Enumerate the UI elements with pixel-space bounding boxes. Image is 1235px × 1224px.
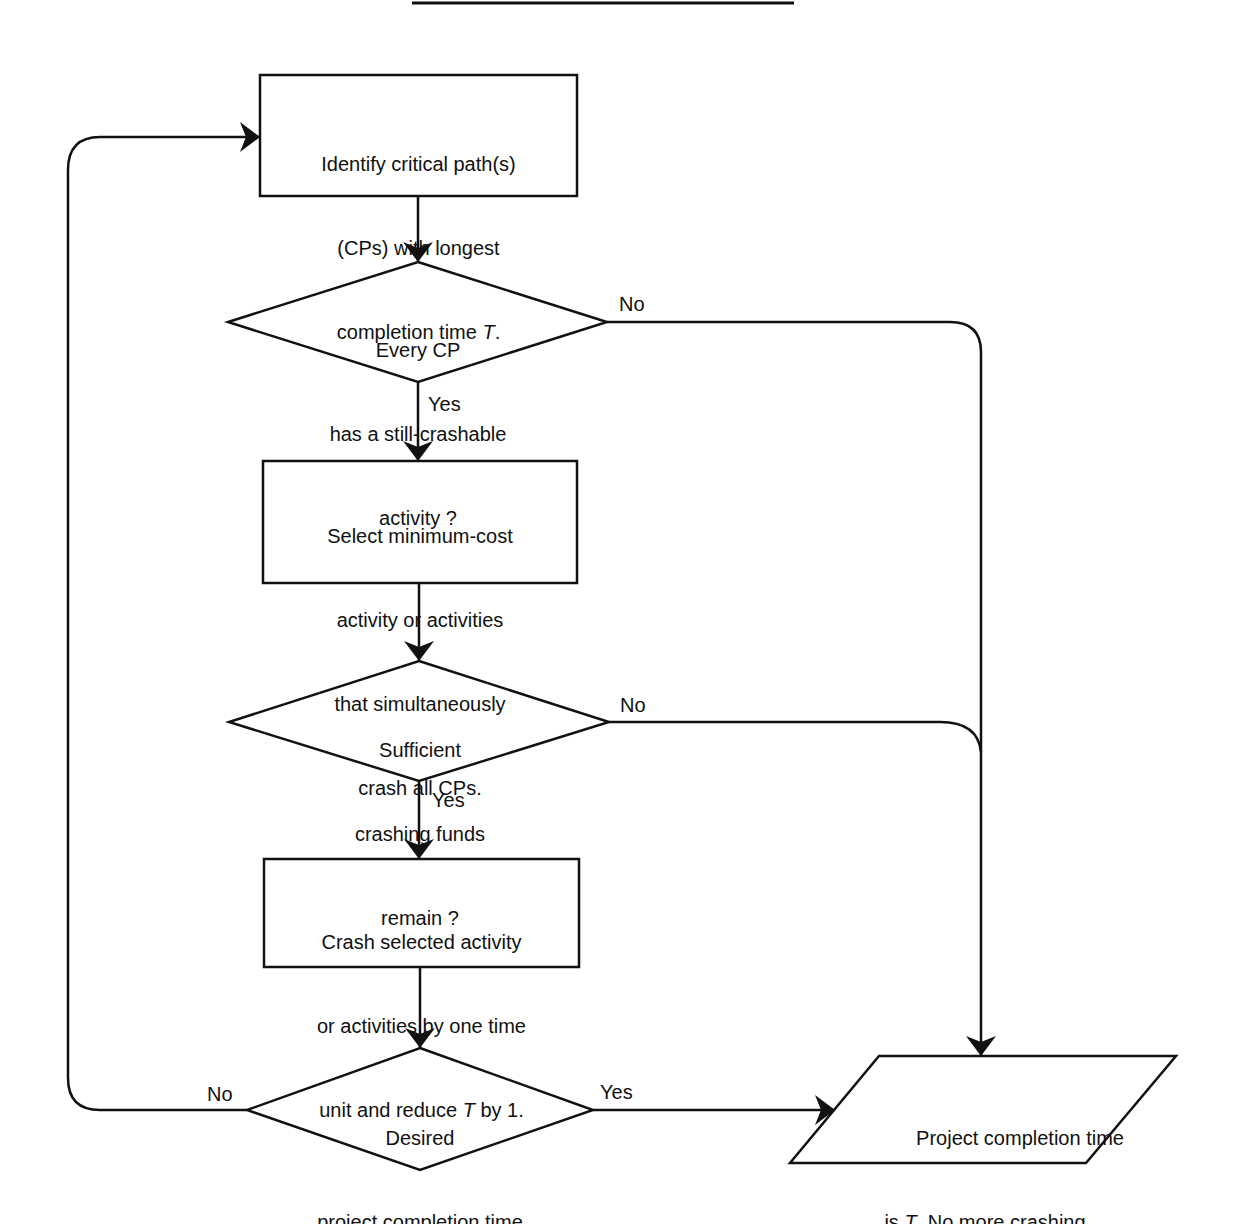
result-text: Project completion time is T. No more cr… — [810, 1068, 1160, 1224]
every-cp-no-label: No — [619, 292, 645, 316]
desired-text: Desired project completion time reached … — [270, 1068, 570, 1224]
edge-everycp-no-to-result — [607, 322, 981, 1056]
every-cp-yes-label: Yes — [428, 392, 461, 416]
desired-yes-label: Yes — [600, 1080, 633, 1104]
edge-desired-no-loop — [68, 137, 260, 1110]
crashing-flowchart: Identify critical path(s) (CPs) with lon… — [0, 0, 1235, 1224]
funds-no-label: No — [620, 693, 646, 717]
funds-yes-label: Yes — [432, 788, 465, 812]
desired-no-label: No — [207, 1082, 233, 1106]
edge-funds-no-to-result — [609, 722, 981, 752]
